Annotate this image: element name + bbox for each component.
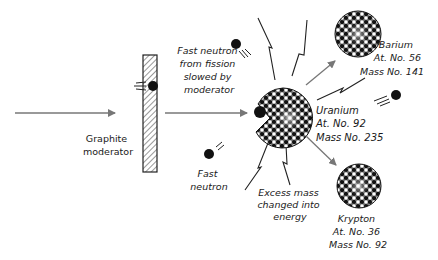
krypton-mass-number: Mass No. 92	[329, 239, 387, 250]
uranium-mass-number: Mass No. 235	[316, 132, 383, 143]
energy-note-line3: energy	[273, 211, 307, 222]
slowed-note-line1: Fast neutron	[177, 45, 237, 56]
uranium-atomic-number: At. No. 92	[315, 118, 366, 129]
fast-neutron-line1: Fast	[198, 168, 219, 179]
barium-name: Barium	[379, 39, 413, 50]
krypton-name: Krypton	[338, 213, 375, 224]
krypton-nucleus	[337, 164, 381, 208]
barium-atomic-number: At. No. 56	[373, 52, 421, 63]
svg-text:Excess mass changed into: Excess mass changed into energy	[257, 187, 322, 222]
barium-nucleus	[335, 11, 381, 57]
energy-note-line1: Excess mass	[258, 187, 319, 198]
moderator-label-line1: Graphite	[86, 133, 128, 144]
svg-text:Fast neutron: Fast neutron	[190, 168, 227, 192]
fast-neutron-line2: neutron	[190, 181, 227, 192]
slowed-note-line4: moderator	[184, 84, 235, 95]
fission-diagram: Graphite moderator Fast neutron from fis…	[0, 0, 438, 260]
svg-text:Graphite moderator: Graphite moderator	[83, 133, 133, 157]
slowed-note-line2: from fission	[180, 58, 236, 69]
moderator-neutron	[134, 81, 158, 91]
svg-text:Krypton At. No. 36 Mas: Krypton At. No. 36 Mass No. 92	[329, 213, 387, 250]
uranium-name: Uranium	[316, 105, 359, 116]
graphite-moderator-bar	[143, 55, 157, 172]
barium-arrow	[306, 61, 335, 85]
moderator-label-line2: moderator	[83, 146, 133, 157]
emitted-neutron-right	[374, 90, 401, 106]
krypton-atomic-number: At. No. 36	[332, 226, 380, 237]
svg-text:Uranium At. No. 92 Mas: Uranium At. No. 92 Mass No. 235	[315, 105, 383, 143]
energy-note-line2: changed into	[257, 199, 319, 210]
slowed-note-line3: slowed by	[184, 71, 232, 82]
barium-mass-number: Mass No. 141	[360, 66, 424, 77]
emitted-neutron-left	[204, 142, 224, 159]
svg-text:Fast neutron from fission: Fast neutron from fission slowed by mode…	[177, 45, 240, 95]
uranium-nucleus	[254, 88, 313, 148]
